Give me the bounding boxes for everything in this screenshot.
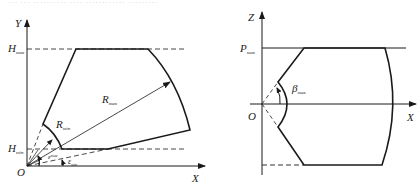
right-figure: Z X O Pmax βmax [239,11,416,175]
eps-max-label: εmax [48,153,58,161]
beta-max-label: βmax [291,82,307,95]
x-axis-label: X [191,172,200,184]
eps-min-label: εmin [68,157,77,167]
right-origin-label: O [248,110,256,122]
origin-label: O [17,166,25,178]
p-max-label: Pmax [239,42,256,55]
workspace-outline [43,49,190,149]
right-x-axis-label: X [406,111,415,123]
beta-ray-lower [262,104,278,127]
left-figure: Y X O Hmax Hmin Rmax Rmin εmax εmin [7,17,205,184]
r-min-label: Rmin [55,118,71,131]
diagram-canvas: Y X O Hmax Hmin Rmax Rmin εmax εmin Z X … [0,0,418,188]
eps-min-arc [62,160,63,166]
h-max-label: Hmax [7,42,25,55]
y-axis-label: Y [15,17,23,29]
beta-max-arc [277,88,280,104]
beta-ray-upper [262,82,278,104]
z-axis-label: Z [248,11,255,23]
h-min-label: Hmin [7,142,24,155]
right-workspace-outline [278,48,393,165]
ray-dashed-upper [27,124,43,166]
r-max-label: Rmax [101,93,118,106]
